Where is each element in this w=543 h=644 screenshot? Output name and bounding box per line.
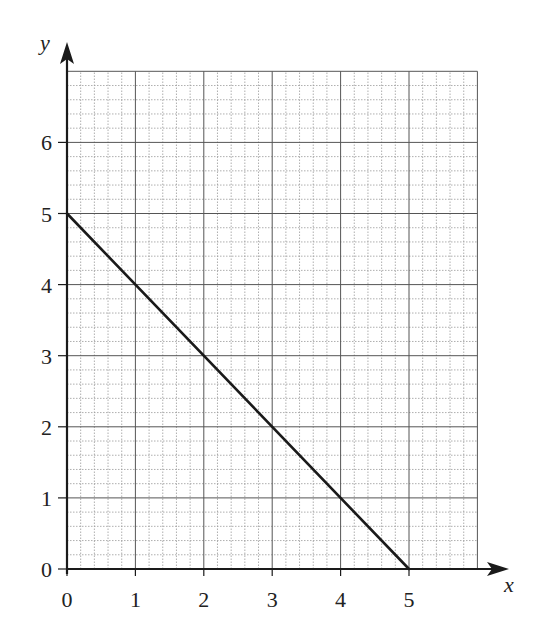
y-tick-label: 0 <box>41 557 52 582</box>
y-axis-label: y <box>38 30 50 55</box>
data-series <box>67 214 409 570</box>
x-tick-label: 0 <box>62 587 73 612</box>
x-tick-label: 1 <box>130 587 141 612</box>
x-tick-label: 5 <box>404 587 415 612</box>
y-tick-label: 6 <box>41 130 52 155</box>
series-line <box>67 214 409 570</box>
y-ticks: 0123456 <box>41 130 67 582</box>
x-ticks: 012345 <box>62 569 415 612</box>
x-tick-label: 2 <box>198 587 209 612</box>
y-tick-label: 3 <box>41 344 52 369</box>
graph-canvas: x y 012345 0123456 <box>0 0 543 644</box>
x-tick-label: 4 <box>335 587 346 612</box>
y-tick-label: 2 <box>41 415 52 440</box>
x-axis-label: x <box>503 572 514 597</box>
y-tick-label: 4 <box>41 273 52 298</box>
x-tick-label: 3 <box>267 587 278 612</box>
y-tick-label: 5 <box>41 202 52 227</box>
major-grid <box>67 71 477 569</box>
y-tick-label: 1 <box>41 486 52 511</box>
